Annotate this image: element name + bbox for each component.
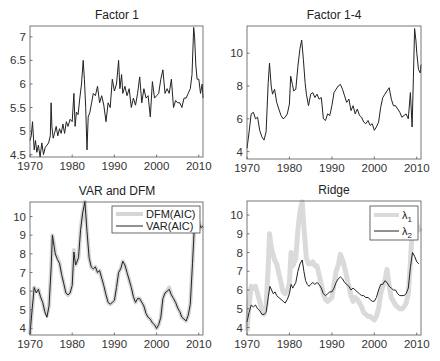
panel-title: Ridge (318, 183, 350, 197)
y-tick-label: 7 (20, 31, 26, 43)
x-tick-label: 2010 (404, 162, 430, 174)
y-tick-label: 8 (237, 80, 243, 92)
panel-title: Factor 1-4 (307, 8, 362, 22)
y-tick-label: 5.5 (10, 102, 26, 114)
panel-title: VAR and DFM (79, 184, 155, 198)
x-tick-label: 1990 (319, 338, 345, 350)
y-tick-label: 9 (237, 228, 243, 240)
y-tick-label: 5 (237, 303, 243, 315)
x-tick-label: 1970 (234, 162, 260, 174)
x-tick-label: 1990 (102, 160, 128, 172)
x-tick-label: 2010 (186, 338, 212, 350)
panel-factor-1-4: Factor 1-4 46810 19701980199020002010 (230, 8, 429, 174)
plot-area (30, 27, 203, 157)
legend: DFM(AIC) VAR(AIC) (112, 206, 200, 233)
y-axis: 4.555.566.57 (10, 31, 33, 161)
legend-label-dfm: DFM(AIC) (146, 208, 196, 220)
y-tick-label: 4 (20, 322, 27, 334)
y-tick-label: 7 (237, 265, 243, 277)
y-tick-label: 8 (20, 248, 26, 260)
y-tick-label: 10 (230, 47, 243, 59)
panel-ridge: Ridge 45678910 19701980199020002010 λ1 λ… (230, 183, 429, 350)
y-tick-label: 5 (20, 304, 26, 316)
x-tick-label: 1980 (59, 338, 85, 350)
y-tick-label: 8 (237, 247, 243, 259)
panel-factor-1: Factor 1 4.555.566.57 197019801990200020… (10, 8, 212, 172)
plot-area (247, 29, 421, 149)
x-tick-label: 1970 (17, 338, 43, 350)
x-tick-label: 1970 (17, 160, 43, 172)
y-tick-label: 6 (237, 284, 243, 296)
x-tick-label: 2010 (404, 338, 430, 350)
y-tick-label: 4 (237, 322, 244, 334)
x-tick-label: 2000 (362, 162, 388, 174)
y-tick-label: 10 (13, 211, 26, 223)
axes-frame (30, 26, 203, 157)
series-line (247, 29, 421, 149)
y-tick-label: 4.5 (10, 149, 26, 161)
legend-label-var: VAR(AIC) (146, 220, 193, 232)
y-tick-label: 6 (20, 78, 26, 90)
legend: λ1 λ2 (370, 206, 418, 240)
y-tick-label: 9 (20, 229, 26, 241)
y-tick-label: 6 (237, 113, 243, 125)
y-tick-label: 6 (20, 285, 26, 297)
series-line (30, 27, 203, 157)
y-tick-label: 6.5 (10, 54, 26, 66)
y-tick-label: 5 (20, 125, 26, 137)
y-tick-label: 10 (230, 209, 243, 221)
x-tick-label: 2000 (144, 338, 170, 350)
y-tick-label: 7 (20, 267, 26, 279)
x-tick-label: 1980 (277, 162, 303, 174)
y-tick-label: 4 (237, 146, 244, 158)
x-tick-label: 1970 (234, 338, 260, 350)
x-tick-label: 1980 (59, 160, 85, 172)
x-tick-label: 2000 (362, 338, 388, 350)
x-tick-label: 1990 (319, 162, 345, 174)
panel-var-and-dfm: VAR and DFM 45678910 1970198019902000201… (13, 184, 211, 350)
x-tick-label: 1980 (277, 338, 303, 350)
x-tick-label: 2010 (186, 160, 212, 172)
x-tick-label: 2000 (144, 160, 170, 172)
figure: Factor 1 4.555.566.57 197019801990200020… (0, 0, 440, 361)
x-tick-label: 1990 (102, 338, 128, 350)
panel-title: Factor 1 (95, 8, 139, 22)
